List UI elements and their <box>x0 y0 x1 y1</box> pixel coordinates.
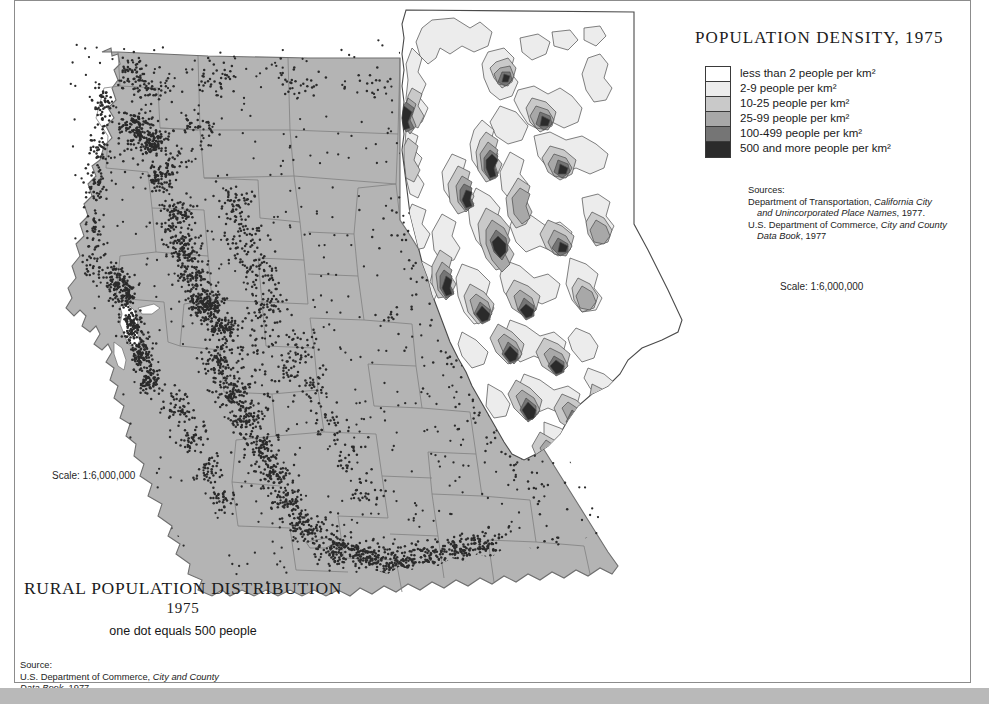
rural-sources-line1: U.S. Department of Commerce, City and Co… <box>20 672 348 684</box>
density-sources-note: Sources: Department of Transportation, C… <box>748 185 975 243</box>
legend-label-0: less than 2 people per km² <box>740 66 891 81</box>
density-map-scale: Scale: 1:6,000,000 <box>780 281 975 292</box>
legend-label-3: 25-99 people per km² <box>740 111 891 126</box>
rural-sources-heading: Source: <box>20 660 348 672</box>
population-density-choropleth-map <box>392 2 692 682</box>
density-sources-line2: and Unincorporated Place Names, 1977. <box>748 208 975 220</box>
legend-label-2: 10-25 people per km² <box>740 96 891 111</box>
legend-swatch-1 <box>706 82 730 97</box>
density-sources-line3: U.S. Department of Commerce, City and Co… <box>748 220 975 232</box>
map-page: POPULATION DENSITY, 1975 less than 2 peo… <box>0 0 989 704</box>
legend-swatch-4 <box>706 127 730 142</box>
rural-title-panel: RURAL POPULATION DISTRIBUTION 1975 one d… <box>18 578 348 695</box>
left-margin-strip <box>0 0 14 704</box>
legend-label-5: 500 and more people per km² <box>740 141 891 156</box>
legend-swatch-5 <box>706 142 730 157</box>
rural-map-title: RURAL POPULATION DISTRIBUTION <box>18 578 348 599</box>
density-sources-line4: Data Book, 1977 <box>748 231 975 243</box>
rural-map-year: 1975 <box>18 600 348 617</box>
legend-swatch-3 <box>706 112 730 127</box>
density-legend-panel: POPULATION DENSITY, 1975 less than 2 peo… <box>695 28 975 292</box>
legend-label-4: 100-499 people per km² <box>740 126 891 141</box>
legend-label-1: 2-9 people per km² <box>740 81 891 96</box>
legend-label-column: less than 2 people per km² 2-9 people pe… <box>740 66 891 158</box>
density-map-title: POPULATION DENSITY, 1975 <box>695 28 975 48</box>
density-sources-heading: Sources: <box>748 185 975 197</box>
legend-swatch-column <box>705 66 731 158</box>
legend-swatch-0 <box>706 67 730 82</box>
density-legend: less than 2 people per km² 2-9 people pe… <box>705 66 975 158</box>
bottom-margin-strip <box>0 688 989 704</box>
legend-swatch-2 <box>706 97 730 112</box>
rural-map-scale: Scale: 1:6,000,000 <box>52 470 135 481</box>
density-sources-line1: Department of Transportation, California… <box>748 197 975 209</box>
rural-map-subtitle: one dot equals 500 people <box>18 624 348 638</box>
